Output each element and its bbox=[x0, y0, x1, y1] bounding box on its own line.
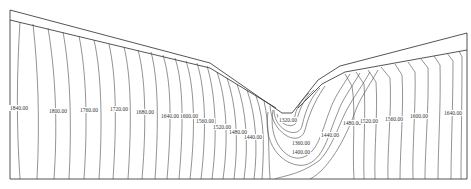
contour-lines-left bbox=[17, 22, 246, 179]
contour-label: 1640.00 bbox=[160, 113, 180, 119]
contour-label: 1760.00 bbox=[79, 107, 99, 113]
contour-plot bbox=[0, 0, 471, 189]
contour-diagram: 1840.00 1800.00 1760.00 1720.00 1680.00 … bbox=[0, 0, 471, 189]
contour-label: 1360.00 bbox=[291, 140, 311, 146]
contour-label: 1320.00 bbox=[278, 117, 298, 123]
boundary-outline bbox=[10, 10, 467, 179]
contour-label: 1720.00 bbox=[109, 106, 129, 112]
contour-label: 1600.00 bbox=[409, 113, 429, 119]
contour-label: 1840.00 bbox=[9, 105, 29, 111]
contour-label: 1440.00 bbox=[320, 132, 340, 138]
contour-label: 1400.00 bbox=[291, 149, 311, 155]
contour-label: 1680.00 bbox=[135, 109, 155, 115]
contour-label: 1440.00 bbox=[243, 134, 263, 140]
contour-label: 1520.00 bbox=[359, 118, 379, 124]
contour-label: 1800.00 bbox=[48, 108, 68, 114]
contour-label: 1640.00 bbox=[443, 110, 463, 116]
contour-label: 1560.00 bbox=[384, 116, 404, 122]
